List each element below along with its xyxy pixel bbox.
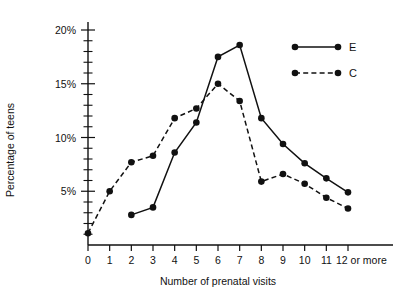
data-point-C-12 — [345, 205, 352, 212]
data-point-C-2 — [128, 159, 135, 166]
x-tick-label-6: 6 — [215, 254, 221, 266]
y-tick-label-20: 20% — [55, 24, 76, 36]
data-point-E-4 — [171, 149, 178, 156]
y-tick-label-5: 5% — [61, 185, 76, 197]
x-tick-label-12: 12 or more — [336, 254, 387, 266]
series-line-E — [131, 45, 348, 215]
data-point-C-9 — [280, 171, 287, 178]
legend-label-E: E — [349, 41, 356, 53]
x-tick-label-1: 1 — [107, 254, 113, 266]
x-tick-label-7: 7 — [237, 254, 243, 266]
data-point-E-11 — [323, 175, 330, 182]
chart-svg: 5%10%15%20%Percentage of teens0123456789… — [0, 0, 399, 294]
data-point-C-5 — [193, 105, 200, 112]
x-tick-label-2: 2 — [128, 254, 134, 266]
data-point-E-7 — [236, 42, 243, 49]
data-point-E-12 — [345, 189, 352, 196]
data-point-E-9 — [280, 141, 287, 148]
data-point-C-0 — [85, 230, 92, 237]
chart-figure: 5%10%15%20%Percentage of teens0123456789… — [0, 0, 399, 294]
data-point-C-10 — [301, 180, 308, 187]
data-point-C-11 — [323, 194, 330, 201]
legend-marker-right-E — [335, 44, 342, 51]
x-tick-label-8: 8 — [258, 254, 264, 266]
data-point-E-5 — [193, 119, 200, 126]
x-tick-label-9: 9 — [280, 254, 286, 266]
data-point-C-7 — [236, 98, 243, 105]
data-point-C-3 — [150, 152, 157, 159]
data-point-C-4 — [171, 115, 178, 122]
x-axis-title: Number of prenatal visits — [160, 275, 276, 287]
data-point-C-8 — [258, 178, 265, 185]
y-tick-label-15: 15% — [55, 78, 76, 90]
x-tick-label-4: 4 — [172, 254, 178, 266]
y-axis-title: Percentage of teens — [4, 103, 16, 197]
data-point-C-1 — [106, 188, 113, 195]
x-tick-label-3: 3 — [150, 254, 156, 266]
y-tick-label-10: 10% — [55, 132, 76, 144]
data-point-C-6 — [215, 80, 222, 87]
data-point-E-6 — [215, 54, 222, 61]
data-point-E-2 — [128, 212, 135, 219]
x-tick-label-10: 10 — [299, 254, 311, 266]
data-point-E-8 — [258, 115, 265, 122]
x-tick-label-0: 0 — [85, 254, 91, 266]
x-tick-label-5: 5 — [193, 254, 199, 266]
legend-label-C: C — [349, 67, 357, 79]
x-tick-label-11: 11 — [321, 254, 332, 266]
legend-marker-left-E — [292, 44, 299, 51]
legend-marker-right-C — [335, 70, 342, 77]
series-line-C — [88, 84, 348, 233]
data-point-E-10 — [301, 160, 308, 167]
legend-marker-left-C — [292, 70, 299, 77]
data-point-E-3 — [150, 204, 157, 211]
